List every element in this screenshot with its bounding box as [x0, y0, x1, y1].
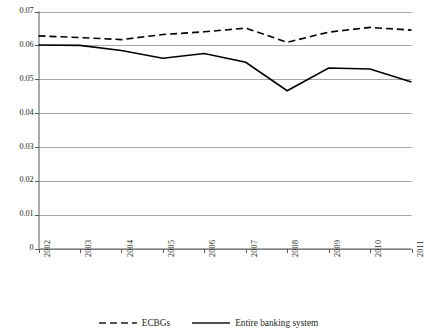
y-tick-label-6: 0.06	[4, 41, 34, 49]
y-tick-label-1: 0.01	[4, 210, 34, 218]
series-line-ecbgs	[39, 27, 412, 42]
chart-legend: ECBGsEntire banking system	[0, 313, 417, 333]
x-tick-label-2008: 2008	[291, 239, 300, 256]
y-tick-label-5: 0.05	[4, 75, 34, 83]
series-line-entire-banking-system	[39, 45, 412, 91]
x-tick-label-2002: 2002	[43, 239, 52, 256]
y-tick-label-4: 0.04	[4, 109, 34, 117]
legend-swatch-dashed-line-icon	[99, 319, 137, 327]
x-tick-label-2009: 2009	[333, 239, 342, 256]
x-tick-label-2005: 2005	[167, 239, 176, 256]
x-tick-label-2004: 2004	[126, 239, 135, 256]
x-tick-label-2007: 2007	[250, 239, 259, 256]
legend-item-ecbgs: ECBGs	[99, 318, 170, 328]
legend-label: Entire banking system	[235, 318, 318, 328]
legend-item-entire-banking-system: Entire banking system	[192, 318, 318, 328]
y-tick-label-3: 0.03	[4, 143, 34, 151]
y-tick-label-7: 0.07	[4, 7, 34, 15]
legend-swatch-solid-line-icon	[192, 319, 230, 327]
x-tick-label-2003: 2003	[84, 239, 93, 256]
y-tick-label-2: 0.02	[4, 176, 34, 184]
y-tick-label-0: 0	[4, 244, 34, 252]
x-tick-label-2011: 2011	[416, 240, 425, 257]
x-tick-label-2010: 2010	[374, 239, 383, 256]
legend-label: ECBGs	[142, 318, 170, 328]
x-tick-label-2006: 2006	[208, 239, 217, 256]
